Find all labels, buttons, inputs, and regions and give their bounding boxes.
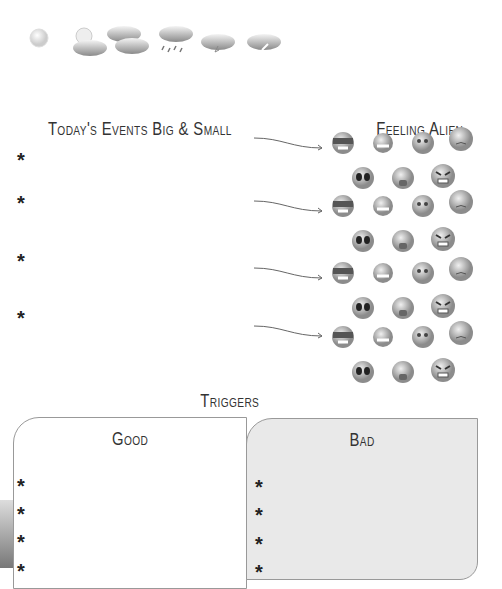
page-edge-shadow <box>0 500 13 568</box>
bad-title: Bad <box>247 429 477 451</box>
alien-worried-icon[interactable] <box>410 129 436 155</box>
alien-cool-icon[interactable] <box>330 259 356 285</box>
good-bullet: * <box>17 504 25 524</box>
alien-angry-icon[interactable] <box>430 162 456 188</box>
arrow-icon <box>252 265 326 285</box>
alien-laughing-icon[interactable] <box>370 259 396 285</box>
arrow-icon <box>252 198 326 218</box>
alien-angry-icon[interactable] <box>430 356 456 382</box>
alien-laughing-icon[interactable] <box>370 192 396 218</box>
alien-scared-icon[interactable] <box>350 358 376 384</box>
alien-crying-icon[interactable] <box>390 164 416 190</box>
alien-worried-icon[interactable] <box>410 192 436 218</box>
alien-crying-icon[interactable] <box>390 358 416 384</box>
triggers-title: Triggers <box>170 390 290 412</box>
bad-bullet: * <box>255 505 263 525</box>
alien-laughing-icon[interactable] <box>370 129 396 155</box>
events-title: Today's Events Big & Small <box>20 118 260 140</box>
good-bullet: * <box>17 532 25 552</box>
bad-triggers-box[interactable]: Bad * * * * <box>246 418 478 580</box>
alien-sad-icon[interactable] <box>448 256 474 282</box>
bad-bullet: * <box>255 534 263 554</box>
good-bullet: * <box>17 561 25 581</box>
event-bullet: * <box>17 193 25 213</box>
alien-crying-icon[interactable] <box>390 227 416 253</box>
event-bullet: * <box>17 150 25 170</box>
storm-icon[interactable] <box>198 30 238 58</box>
alien-sad-icon[interactable] <box>448 320 474 346</box>
wind-icon[interactable] <box>244 30 284 58</box>
arrow-icon <box>252 135 326 155</box>
arrow-icon <box>252 323 326 343</box>
alien-worried-icon[interactable] <box>410 323 436 349</box>
alien-crying-icon[interactable] <box>390 294 416 320</box>
alien-worried-icon[interactable] <box>410 259 436 285</box>
good-title: Good <box>14 428 246 450</box>
alien-group-2 <box>330 189 480 265</box>
event-bullet: * <box>17 251 25 271</box>
alien-cool-icon[interactable] <box>330 323 356 349</box>
alien-angry-icon[interactable] <box>430 225 456 251</box>
alien-sad-icon[interactable] <box>448 126 474 152</box>
event-bullet: * <box>17 308 25 328</box>
alien-laughing-icon[interactable] <box>370 323 396 349</box>
alien-cool-icon[interactable] <box>330 192 356 218</box>
bad-bullet: * <box>255 562 263 582</box>
alien-group-4 <box>330 320 480 396</box>
alien-scared-icon[interactable] <box>350 294 376 320</box>
alien-scared-icon[interactable] <box>350 227 376 253</box>
cloudy-icon[interactable] <box>104 22 150 58</box>
alien-scared-icon[interactable] <box>350 164 376 190</box>
weather-row <box>28 22 298 62</box>
good-triggers-box[interactable]: Good * * * * <box>13 417 247 589</box>
partly-cloudy-icon[interactable] <box>68 24 108 60</box>
sun-icon[interactable] <box>28 27 50 49</box>
bad-bullet: * <box>255 477 263 497</box>
alien-angry-icon[interactable] <box>430 292 456 318</box>
alien-cool-icon[interactable] <box>330 129 356 155</box>
rain-icon[interactable] <box>156 22 196 60</box>
alien-sad-icon[interactable] <box>448 189 474 215</box>
good-bullet: * <box>17 476 25 496</box>
